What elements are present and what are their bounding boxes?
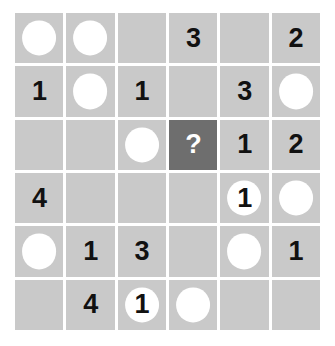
grid-cell-r6c1[interactable]	[15, 280, 63, 330]
grid-cell-r5c2[interactable]: 1	[66, 226, 114, 276]
grid-cell-r5c4[interactable]	[169, 226, 217, 276]
grid-cell-r4c4[interactable]	[169, 173, 217, 223]
grid-cell-r5c3[interactable]: 3	[118, 226, 166, 276]
cell-number-label: 1	[237, 185, 252, 212]
circle-token-icon	[22, 21, 56, 56]
grid-cell-r4c5[interactable]: 1	[220, 173, 268, 223]
grid-cell-r4c3[interactable]	[118, 173, 166, 223]
grid-cell-r3c2[interactable]	[66, 120, 114, 170]
grid-cell-r6c5[interactable]	[220, 280, 268, 330]
puzzle-board: 32113?124113141	[0, 0, 335, 346]
grid-cell-r6c6[interactable]	[272, 280, 320, 330]
circle-token-icon	[176, 287, 210, 322]
cell-number-label: 3	[186, 25, 201, 52]
circle-token-icon	[125, 127, 159, 162]
grid-cell-r3c1[interactable]	[15, 120, 63, 170]
cell-number-label: 3	[237, 78, 252, 105]
grid-cell-r1c5[interactable]	[220, 13, 268, 63]
grid-cell-r1c4[interactable]: 3	[169, 13, 217, 63]
circle-token-icon	[279, 181, 313, 216]
grid-cell-r2c2[interactable]	[66, 66, 114, 116]
cell-number-label: 1	[135, 291, 150, 318]
cell-number-label: 1	[289, 238, 304, 265]
grid-cell-r6c3[interactable]: 1	[118, 280, 166, 330]
grid-cell-r3c5[interactable]: 1	[220, 120, 268, 170]
cell-number-label: 4	[83, 291, 98, 318]
cell-number-label: 1	[32, 78, 47, 105]
grid-cell-r5c5[interactable]	[220, 226, 268, 276]
grid-cell-r3c6[interactable]: 2	[272, 120, 320, 170]
circle-token-icon	[22, 234, 56, 269]
grid-cell-r3c3[interactable]	[118, 120, 166, 170]
grid-cell-r5c1[interactable]	[15, 226, 63, 276]
grid-cell-r2c4[interactable]	[169, 66, 217, 116]
grid-cell-r1c2[interactable]	[66, 13, 114, 63]
grid-cell-r4c1[interactable]: 4	[15, 173, 63, 223]
cell-number-label: 3	[135, 238, 150, 265]
grid-cell-r2c5[interactable]: 3	[220, 66, 268, 116]
grid-cell-r1c6[interactable]: 2	[272, 13, 320, 63]
question-mark-label: ?	[185, 131, 201, 158]
cell-number-label: 1	[135, 78, 150, 105]
grid-cell-r6c4[interactable]	[169, 280, 217, 330]
grid-cell-r2c6[interactable]	[272, 66, 320, 116]
cell-number-label: 2	[289, 25, 304, 52]
grid-cell-r1c3[interactable]	[118, 13, 166, 63]
grid-cell-r2c1[interactable]: 1	[15, 66, 63, 116]
grid-cell-r3c4[interactable]: ?	[169, 120, 217, 170]
puzzle-grid: 32113?124113141	[15, 13, 320, 330]
cell-number-label: 4	[32, 185, 47, 212]
grid-cell-r1c1[interactable]	[15, 13, 63, 63]
circle-token-icon	[74, 74, 108, 109]
circle-token-icon	[279, 74, 313, 109]
grid-cell-r4c6[interactable]	[272, 173, 320, 223]
grid-cell-r6c2[interactable]: 4	[66, 280, 114, 330]
cell-number-label: 1	[83, 238, 98, 265]
cell-number-label: 1	[237, 131, 252, 158]
grid-cell-r4c2[interactable]	[66, 173, 114, 223]
circle-token-icon	[74, 21, 108, 56]
grid-cell-r2c3[interactable]: 1	[118, 66, 166, 116]
circle-token-icon	[228, 234, 262, 269]
grid-cell-r5c6[interactable]: 1	[272, 226, 320, 276]
cell-number-label: 2	[289, 131, 304, 158]
